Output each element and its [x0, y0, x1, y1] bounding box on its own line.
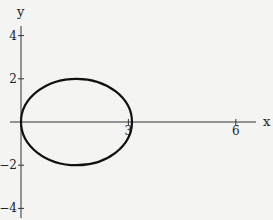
y-tick-label: 4 [9, 29, 17, 43]
x-tick-label: 6 [232, 124, 240, 138]
y-tick-label: −4 [0, 201, 17, 215]
x-axis-label: x [263, 114, 271, 129]
y-tick-label: 2 [9, 72, 17, 86]
y-tick-label: −2 [0, 158, 17, 172]
y-axis-label: y [16, 4, 25, 19]
chart: 36 42−2−4 x y [0, 0, 273, 220]
